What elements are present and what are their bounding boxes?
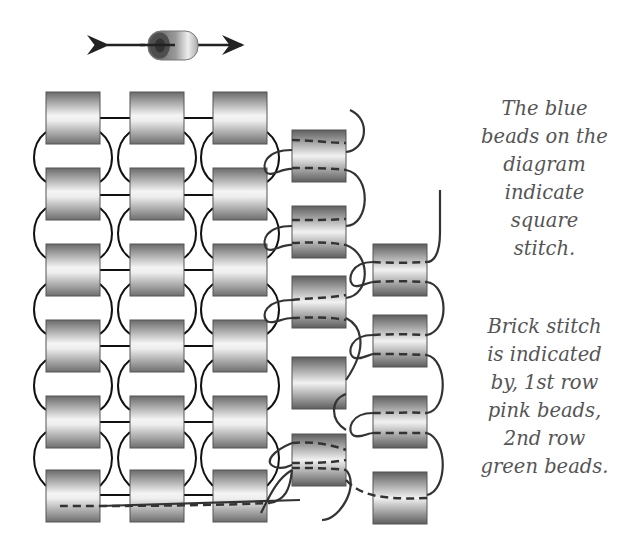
caption-line: by, 1st row: [462, 369, 627, 397]
bead: [130, 92, 184, 144]
caption-line: The blue: [462, 95, 627, 123]
square-stitch-beads: [46, 92, 267, 522]
caption-line: square: [462, 207, 627, 235]
bead: [130, 320, 184, 372]
bead: [373, 396, 427, 448]
bead: [292, 206, 346, 258]
bead: [46, 396, 100, 448]
bead: [213, 396, 267, 448]
bead: [292, 357, 346, 409]
bead: [292, 276, 346, 328]
bead: [213, 320, 267, 372]
bead: [46, 470, 100, 522]
bead: [213, 244, 267, 296]
caption-line: pink beads,: [462, 397, 627, 425]
caption-line: 2nd row: [462, 425, 627, 453]
caption-line: diagram: [462, 151, 627, 179]
bead: [46, 168, 100, 220]
bead-direction-icon: [107, 31, 242, 60]
caption-line: is indicated: [462, 341, 627, 369]
bead: [46, 92, 100, 144]
bead: [130, 470, 184, 522]
square-stitch-caption: The blue beads on the diagram indicate s…: [462, 95, 627, 263]
brick-row1-beads: [292, 130, 346, 486]
bead: [130, 244, 184, 296]
caption-line: indicate: [462, 179, 627, 207]
caption-line: green beads.: [462, 453, 627, 481]
bead: [373, 244, 427, 296]
brick-row2-beads: [373, 244, 427, 524]
brick-stitch-caption: Brick stitch is indicated by, 1st row pi…: [462, 313, 627, 481]
caption-line: beads on the: [462, 123, 627, 151]
bead: [213, 92, 267, 144]
bead: [292, 130, 346, 182]
bead: [213, 168, 267, 220]
caption-line: Brick stitch: [462, 313, 627, 341]
bead: [46, 320, 100, 372]
bead: [130, 168, 184, 220]
bead: [46, 244, 100, 296]
bead: [373, 315, 427, 367]
bead: [213, 470, 267, 522]
caption-line: stitch.: [462, 235, 627, 263]
bead: [130, 396, 184, 448]
